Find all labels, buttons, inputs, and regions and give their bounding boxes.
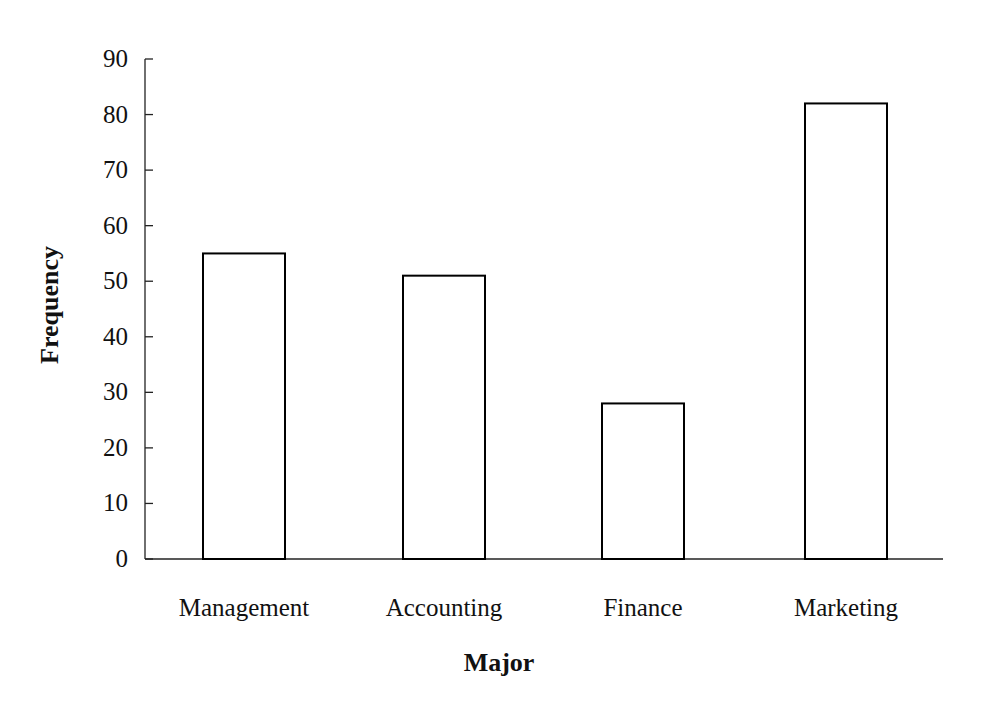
y-tick-label: 50: [88, 268, 128, 293]
bar-finance: [602, 403, 684, 559]
y-tick-label: 40: [88, 324, 128, 349]
y-tick-label: 70: [88, 157, 128, 182]
x-tick-label-finance: Finance: [543, 595, 743, 620]
y-tick-label: 20: [88, 435, 128, 460]
y-tick-label: 0: [88, 546, 128, 571]
y-tick-label: 10: [88, 490, 128, 515]
bar-accounting: [403, 276, 485, 559]
x-tick-label-marketing: Marketing: [746, 595, 946, 620]
bar-chart: Frequency Major 0102030405060708090 Mana…: [0, 0, 998, 714]
bar-marketing: [805, 103, 887, 559]
bar-management: [203, 253, 285, 559]
x-axis-title: Major: [399, 648, 599, 678]
y-tick-label: 90: [88, 46, 128, 71]
y-tick-label: 80: [88, 102, 128, 127]
x-tick-label-management: Management: [144, 595, 344, 620]
y-tick-label: 60: [88, 213, 128, 238]
y-axis-title: Frequency: [35, 205, 65, 405]
x-tick-label-accounting: Accounting: [344, 595, 544, 620]
y-tick-label: 30: [88, 379, 128, 404]
